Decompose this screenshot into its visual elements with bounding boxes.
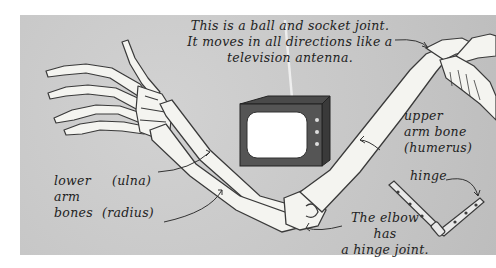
caption-line: This is a ball and socket joint. xyxy=(170,18,410,34)
hinge-label: hinge xyxy=(410,168,447,184)
caption-line: television antenna. xyxy=(170,50,410,66)
caption-line: a hinge joint. xyxy=(330,242,440,258)
caption-line: The elbow xyxy=(330,210,440,226)
label-line: arm xyxy=(54,189,93,205)
ulna-label: (ulna) xyxy=(112,173,151,189)
lower-arm-label: lower arm bones xyxy=(54,173,93,221)
label-line: (humerus) xyxy=(404,140,472,156)
hand-bones-icon xyxy=(46,40,172,138)
label-line: bones xyxy=(54,205,93,221)
ball-socket-caption: This is a ball and socket joint. It move… xyxy=(170,18,410,66)
radius-label: (radius) xyxy=(102,205,154,221)
upper-arm-label: upper arm bone (humerus) xyxy=(404,108,472,156)
label-line: arm bone xyxy=(404,124,472,140)
elbow-caption: The elbow has a hinge joint. xyxy=(330,210,440,258)
label-line: lower xyxy=(54,173,93,189)
label-line: upper xyxy=(404,108,472,124)
caption-line: has xyxy=(330,226,440,242)
caption-line: It moves in all directions like a xyxy=(170,34,410,50)
